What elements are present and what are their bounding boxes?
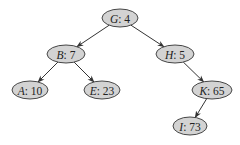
node-label: E: 23	[89, 85, 115, 97]
node-label: B: 7	[57, 49, 76, 61]
tree-node-I: I: 73	[173, 117, 207, 135]
tree-diagram: G: 4B: 7H: 5A: 10E: 23K: 65I: 73	[0, 0, 240, 145]
node-label: G: 4	[110, 13, 130, 25]
node-label: K: 65	[198, 85, 224, 97]
edge-B-E	[74, 62, 94, 82]
tree-node-A: A: 10	[12, 81, 48, 99]
node-label: H: 5	[164, 49, 185, 61]
tree-node-G: G: 4	[102, 9, 138, 27]
edge-G-H	[131, 25, 164, 47]
edge-G-B	[77, 25, 109, 46]
tree-node-E: E: 23	[84, 81, 120, 99]
node-label: A: 10	[17, 85, 43, 97]
node-label: I: 73	[178, 121, 201, 133]
edge-K-I	[195, 99, 206, 118]
edge-H-K	[183, 62, 203, 82]
tree-nodes: G: 4B: 7H: 5A: 10E: 23K: 65I: 73	[12, 9, 232, 135]
tree-node-B: B: 7	[47, 45, 85, 63]
tree-node-K: K: 65	[192, 81, 232, 99]
edge-B-A	[38, 62, 58, 82]
tree-node-H: H: 5	[156, 45, 194, 63]
tree-edges	[38, 25, 207, 117]
